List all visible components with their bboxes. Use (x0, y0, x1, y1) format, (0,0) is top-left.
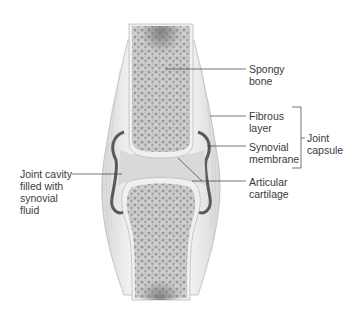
label-joint-cavity: Joint cavity filled with synovial fluid (20, 168, 72, 216)
lower-bone (122, 178, 201, 301)
upper-bone (129, 24, 193, 158)
label-joint-capsule: Joint capsule (307, 132, 343, 156)
synovial-joint-diagram (0, 0, 361, 319)
label-articular-cartilage: Articular cartilage (249, 176, 289, 200)
label-fibrous-layer: Fibrous layer (249, 110, 284, 134)
label-spongy-bone: Spongy bone (249, 63, 285, 87)
label-synovial-membrane: Synovial membrane (249, 141, 299, 165)
